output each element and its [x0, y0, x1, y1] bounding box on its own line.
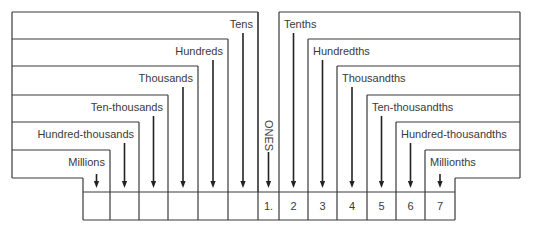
arrow-ten-thousands-icon: [151, 116, 156, 188]
place-value-diagram: TensHundredsThousandsTen-thousandsHundre…: [0, 0, 533, 230]
arrow-hundredths-icon: [320, 60, 325, 188]
label-ten-thousands: Ten-thousands: [91, 101, 164, 113]
arrow-hundred-thousands-icon: [122, 143, 127, 188]
label-millionths: Millionths: [430, 156, 476, 168]
label-hundred-thousandths: Hundred-thousandths: [401, 128, 507, 140]
arrow-thousands-icon: [180, 87, 185, 188]
digit-row: 1.234567: [264, 200, 443, 212]
arrow-ones-icon: [266, 152, 271, 188]
arrow-tens-icon: [240, 33, 245, 188]
digit-cell: 6: [407, 200, 413, 212]
digit-cell: 7: [437, 200, 443, 212]
arrow-hundreds-icon: [210, 60, 215, 188]
label-tenths: Tenths: [284, 18, 317, 30]
arrow-tenths-icon: [291, 33, 296, 188]
arrow-thousandths-icon: [349, 87, 354, 188]
labels: TensHundredsThousandsTen-thousandsHundre…: [37, 18, 507, 168]
label-hundredths: Hundredths: [313, 45, 370, 57]
label-tens: Tens: [230, 18, 254, 30]
arrow-hundred-thousandths-icon: [408, 143, 413, 188]
label-millions: Millions: [68, 156, 105, 168]
digit-cell: 2: [290, 200, 296, 212]
label-hundred-thousands: Hundred-thousands: [37, 128, 134, 140]
arrow-millions-icon: [94, 174, 99, 188]
arrow-ten-thousandths-icon: [379, 116, 384, 188]
arrow-millionths-icon: [437, 174, 442, 188]
label-ten-thousandths: Ten-thousandths: [372, 101, 454, 113]
digit-cell: 4: [349, 200, 355, 212]
label-ones: ONES: [263, 120, 275, 151]
digit-cell: 5: [378, 200, 384, 212]
label-thousands: Thousands: [139, 72, 194, 84]
label-thousandths: Thousandths: [342, 72, 406, 84]
label-hundreds: Hundreds: [175, 45, 223, 57]
diagram-lines: [12, 12, 520, 220]
digit-cell: 3: [319, 200, 325, 212]
digit-cell: 1.: [264, 200, 273, 212]
